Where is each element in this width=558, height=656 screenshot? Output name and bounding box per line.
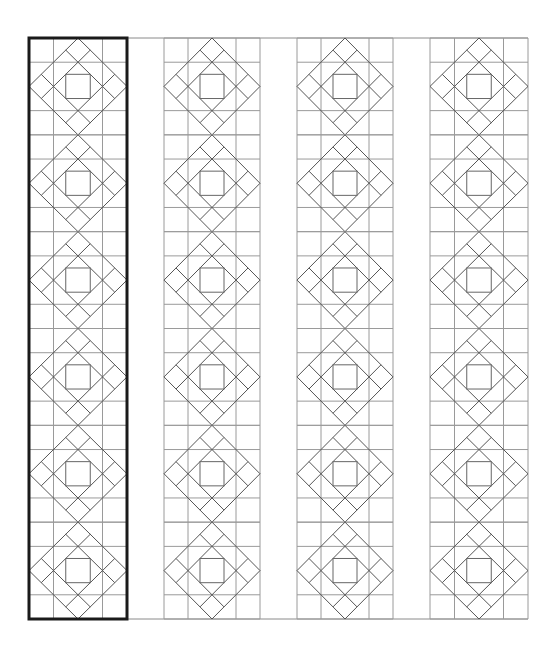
- quilt-block: [164, 232, 260, 329]
- center-square: [467, 268, 492, 292]
- quilt-strip-1: [29, 38, 127, 619]
- quilt-pattern-canvas: [0, 0, 558, 656]
- center-square: [333, 171, 357, 195]
- quilt-block: [29, 329, 127, 426]
- center-square: [333, 558, 357, 582]
- center-square: [333, 462, 357, 486]
- center-square: [333, 74, 357, 98]
- quilt-block: [430, 522, 528, 619]
- center-square: [200, 74, 224, 98]
- center-square: [467, 462, 492, 486]
- center-square: [66, 462, 91, 486]
- quilt-block: [297, 232, 393, 329]
- quilt-block: [164, 38, 260, 135]
- center-square: [66, 558, 91, 582]
- quilt-block: [29, 522, 127, 619]
- quilt-strip-2: [164, 38, 260, 619]
- center-square: [66, 268, 91, 292]
- quilt-block: [164, 522, 260, 619]
- quilt-block: [297, 329, 393, 426]
- center-square: [200, 268, 224, 292]
- quilt-strip-3: [297, 38, 393, 619]
- center-square: [333, 365, 357, 389]
- quilt-block: [164, 135, 260, 232]
- quilt-block: [430, 135, 528, 232]
- center-square: [200, 462, 224, 486]
- center-square: [66, 74, 91, 98]
- quilt-strip-4: [430, 38, 528, 619]
- center-square: [467, 558, 492, 582]
- center-square: [200, 171, 224, 195]
- quilt-block: [29, 135, 127, 232]
- center-square: [333, 268, 357, 292]
- quilt-block: [297, 425, 393, 522]
- quilt-block: [430, 38, 528, 135]
- center-square: [467, 74, 492, 98]
- strips-group: [29, 38, 528, 619]
- center-square: [66, 171, 91, 195]
- center-square: [467, 365, 492, 389]
- quilt-block: [430, 329, 528, 426]
- quilt-block: [29, 425, 127, 522]
- quilt-block: [29, 38, 127, 135]
- quilt-block: [297, 522, 393, 619]
- center-square: [200, 365, 224, 389]
- center-square: [66, 365, 91, 389]
- quilt-block: [297, 135, 393, 232]
- quilt-block: [164, 425, 260, 522]
- center-square: [467, 171, 492, 195]
- quilt-block: [297, 38, 393, 135]
- quilt-block: [430, 232, 528, 329]
- quilt-block: [29, 232, 127, 329]
- center-square: [200, 558, 224, 582]
- quilt-block: [430, 425, 528, 522]
- quilt-block: [164, 329, 260, 426]
